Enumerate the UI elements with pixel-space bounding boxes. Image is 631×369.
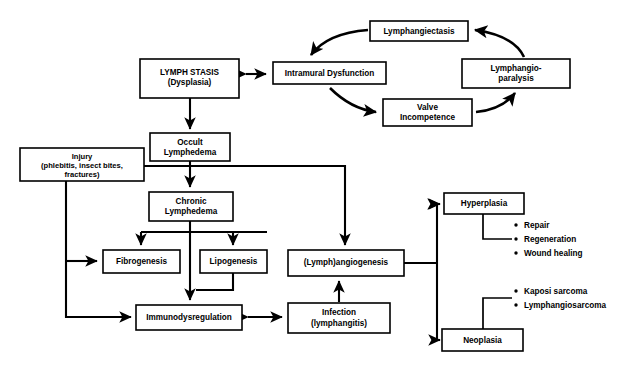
edge-lymphangiectasis-to-intramural (311, 30, 368, 55)
node-lymphangio-paralysis-line2: paralysis (498, 74, 534, 83)
node-lymph-stasis[interactable]: LYMPH STASIS (Dysplasia) (140, 59, 239, 98)
node-lymph-stasis-line1: LYMPH STASIS (160, 68, 220, 77)
lymphedema-flowchart: Lymphangiectasis Intramural Dysfunction … (0, 0, 631, 369)
neoplasia-outcome-0: Kaposi sarcoma (524, 287, 588, 296)
node-lymphangiectasis[interactable]: Lymphangiectasis (370, 21, 468, 41)
bullet-dot (514, 303, 517, 306)
bullet-dot (514, 289, 517, 292)
node-intramural-dysfunction-label: Intramural Dysfunction (285, 69, 375, 78)
edge-lipogenesis-to-immunodysregulation (196, 273, 233, 290)
node-injury[interactable]: Injury (phlebitis, insect bites, fractur… (20, 148, 144, 181)
node-immunodysregulation-label: Immunodysregulation (146, 313, 232, 322)
node-valve-incompetence-line1: Valve (417, 103, 438, 112)
node-occult-lymphedema-line1: Occult (177, 138, 203, 147)
node-chronic-lymphedema-line2: Lymphedema (165, 207, 218, 216)
hyperplasia-outcome-1: Regeneration (524, 235, 576, 244)
bullet-dot (514, 237, 517, 240)
node-lymphangio-paralysis[interactable]: Lymphangio- paralysis (462, 59, 570, 88)
neoplasia-outcome-1: Lymphangiosarcoma (524, 301, 606, 310)
node-injury-line2: (phlebitis, insect bites, (41, 161, 123, 170)
node-angiogenesis[interactable]: (Lymph)angiogenesis (288, 250, 404, 276)
node-lipogenesis-label: Lipogenesis (210, 257, 258, 266)
node-lymphangiectasis-label: Lymphangiectasis (383, 27, 455, 36)
node-lipogenesis[interactable]: Lipogenesis (200, 250, 267, 273)
edge-valve-to-paralysis (476, 93, 515, 112)
flowchart-canvas: Lymphangiectasis Intramural Dysfunction … (0, 0, 631, 369)
bullet-dot (514, 223, 517, 226)
annotation-hyperplasia-outcomes: Repair Regeneration Wound healing (514, 221, 582, 258)
edge-intramural-to-valve (330, 88, 376, 112)
leader-neoplasia-outcomes (483, 298, 512, 330)
node-infection-line2: (lymphangitis) (311, 319, 367, 328)
node-hyperplasia-label: Hyperplasia (461, 199, 508, 208)
node-injury-line1: Injury (72, 152, 93, 161)
node-lymphangio-paralysis-line1: Lymphangio- (490, 64, 541, 73)
node-chronic-lymphedema-line1: Chronic (176, 197, 207, 206)
hyperplasia-outcome-2: Wound healing (524, 249, 583, 258)
node-valve-incompetence-line2: Incompetence (400, 113, 456, 122)
node-injury-line3: fractures) (64, 170, 99, 179)
leader-hyperplasia-outcomes (483, 213, 512, 239)
node-fibrogenesis[interactable]: Fibrogenesis (103, 250, 180, 273)
annotation-neoplasia-outcomes: Kaposi sarcoma Lymphangiosarcoma (514, 287, 606, 310)
node-occult-lymphedema[interactable]: Occult Lymphedema (150, 133, 230, 161)
hyperplasia-outcome-0: Repair (524, 221, 550, 230)
bullet-dot (514, 251, 517, 254)
edge-injury-to-immunodysregulation (66, 181, 131, 317)
edge-paralysis-to-lymphangiectasis (475, 30, 524, 57)
node-fibrogenesis-label: Fibrogenesis (116, 257, 167, 266)
node-occult-lymphedema-line2: Lymphedema (164, 148, 217, 157)
node-immunodysregulation[interactable]: Immunodysregulation (136, 305, 242, 330)
node-infection-line1: Infection (322, 308, 356, 317)
node-valve-incompetence[interactable]: Valve Incompetence (383, 99, 472, 126)
node-infection[interactable]: Infection (lymphangitis) (288, 303, 390, 333)
node-chronic-lymphedema[interactable]: Chronic Lymphedema (149, 192, 233, 221)
node-angiogenesis-label: (Lymph)angiogenesis (304, 258, 389, 267)
node-hyperplasia[interactable]: Hyperplasia (444, 193, 524, 214)
node-lymph-stasis-line2: (Dysplasia) (168, 78, 212, 87)
node-neoplasia-label: Neoplasia (463, 336, 502, 345)
node-neoplasia[interactable]: Neoplasia (442, 329, 523, 351)
node-intramural-dysfunction[interactable]: Intramural Dysfunction (273, 62, 386, 84)
